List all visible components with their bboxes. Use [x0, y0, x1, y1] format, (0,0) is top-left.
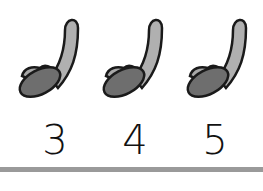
number-label: 4	[115, 118, 155, 162]
divider-bar	[0, 167, 263, 172]
item-2	[94, 10, 174, 100]
item-3	[178, 10, 258, 100]
number-label: 5	[195, 118, 235, 162]
banana-sock-icon	[94, 10, 174, 100]
banana-sock-icon	[178, 10, 258, 100]
banana-sock-icon	[10, 10, 90, 100]
item-1	[10, 10, 90, 100]
number-label: 3	[35, 118, 75, 162]
